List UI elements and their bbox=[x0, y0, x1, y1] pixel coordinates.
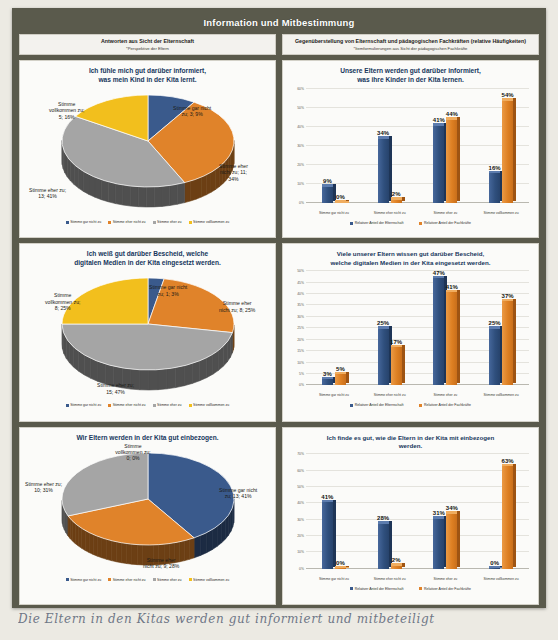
legend-label: Relativer Anteil der Fachkräfte bbox=[424, 403, 471, 407]
y-axis-tick-label: 30% bbox=[297, 315, 304, 319]
bar[interactable]: 54% bbox=[502, 100, 513, 203]
legend-item[interactable]: Relativer Anteil der Fachkräfte bbox=[419, 403, 470, 407]
bar-value-label: 47% bbox=[433, 270, 445, 276]
bar[interactable]: 25% bbox=[489, 328, 500, 385]
legend-item[interactable]: Stimme gar nicht zu bbox=[66, 578, 101, 582]
bar[interactable]: 28% bbox=[378, 523, 389, 569]
bar-chart-plot-area: 0%10%20%30%40%50%60%70%41%0%28%2%31%34%0… bbox=[306, 454, 529, 568]
legend-item[interactable]: Stimme eher zu bbox=[153, 403, 182, 407]
legend-swatch-icon bbox=[153, 221, 156, 224]
bar[interactable]: 0% bbox=[335, 568, 346, 569]
y-axis-tick-label: 20% bbox=[297, 338, 304, 342]
legend-swatch-icon bbox=[189, 404, 192, 407]
bar[interactable]: 0% bbox=[335, 202, 346, 203]
pie-3-plot: Stimme gar nichtzu; 13; 41%Stimme eherni… bbox=[23, 443, 272, 583]
x-axis-tick-label: Stimme vollkommen zu bbox=[473, 577, 529, 581]
bar-1-plot: 0%10%20%30%40%50%60%9%0%34%2%41%44%16%54… bbox=[286, 85, 535, 225]
legend-swatch-icon bbox=[108, 404, 111, 407]
pie-2-legend: Stimme gar nicht zuStimme eher nicht zuS… bbox=[23, 403, 272, 407]
bar[interactable]: 47% bbox=[433, 278, 444, 385]
bar-group: 25%37% bbox=[473, 271, 529, 385]
x-axis-tick-label: Stimme gar nicht zu bbox=[306, 393, 362, 397]
y-axis-tick-label: 5% bbox=[299, 372, 304, 376]
legend-item[interactable]: Stimme eher zu bbox=[153, 220, 182, 224]
x-axis-category-labels: Stimme gar nicht zuStimme eher nicht zuS… bbox=[306, 577, 529, 581]
legend-item[interactable]: Relativer Anteil der Fachkräfte bbox=[419, 221, 470, 225]
bar[interactable]: 0% bbox=[489, 568, 500, 569]
bar[interactable]: 34% bbox=[446, 513, 457, 569]
bar-value-label: 34% bbox=[377, 130, 389, 136]
pie-graphic bbox=[30, 445, 266, 571]
y-axis-tick-label: 70% bbox=[297, 452, 304, 456]
bar[interactable]: 16% bbox=[489, 173, 500, 203]
pie-1-stage: Stimme gar nichtzu; 3; 9%Stimme ehernich… bbox=[23, 87, 272, 215]
pie-slice-label: Stimme ehernicht zu; 9; 28% bbox=[143, 557, 179, 570]
bar-groups: 9%0%34%2%41%44%16%54% bbox=[306, 89, 529, 203]
pie-3-title: Wir Eltern werden in der Kita gut einbez… bbox=[23, 432, 272, 443]
legend-item[interactable]: Stimme eher nicht zu bbox=[108, 403, 145, 407]
bar-group: 0%63% bbox=[473, 454, 529, 568]
x-axis-category-labels: Stimme gar nicht zuStimme eher nicht zuS… bbox=[306, 393, 529, 397]
bar-value-label: 2% bbox=[392, 191, 401, 197]
bar[interactable]: 41% bbox=[446, 292, 457, 386]
bar-value-label: 0% bbox=[490, 560, 499, 566]
bar-2-plot: 0%5%10%15%20%25%30%35%40%45%50%3%5%25%17… bbox=[286, 267, 535, 407]
bar[interactable]: 41% bbox=[322, 502, 333, 569]
legend-item[interactable]: Stimme gar nicht zu bbox=[66, 220, 101, 224]
y-axis-tick-label: 20% bbox=[297, 534, 304, 538]
bar-value-label: 9% bbox=[323, 178, 332, 184]
legend-item[interactable]: Stimme vollkommen zu bbox=[189, 403, 230, 407]
x-axis-tick-label: Stimme eher zu bbox=[418, 393, 474, 397]
legend-label: Stimme gar nicht zu bbox=[70, 220, 101, 224]
legend-swatch-icon bbox=[108, 578, 111, 581]
y-axis-tick-label: 40% bbox=[297, 501, 304, 505]
bar[interactable]: 25% bbox=[378, 328, 389, 385]
bar[interactable]: 37% bbox=[502, 301, 513, 386]
bar-groups: 41%0%28%2%31%34%0%63% bbox=[306, 454, 529, 568]
bar[interactable]: 17% bbox=[391, 347, 402, 386]
bar[interactable]: 3% bbox=[322, 379, 333, 386]
bar[interactable]: 9% bbox=[322, 186, 333, 203]
bar[interactable]: 2% bbox=[391, 199, 402, 203]
legend-item[interactable]: Relativer Anteil der Elternschaft bbox=[350, 221, 403, 225]
y-axis-tick-label: 40% bbox=[297, 125, 304, 129]
legend-item[interactable]: Stimme eher nicht zu bbox=[108, 578, 145, 582]
bar-group: 16%54% bbox=[473, 89, 529, 203]
legend-item[interactable]: Relativer Anteil der Elternschaft bbox=[350, 587, 403, 591]
legend-label: Stimme vollkommen zu bbox=[193, 403, 229, 407]
x-axis-tick-label: Stimme eher nicht zu bbox=[362, 577, 418, 581]
legend-item[interactable]: Stimme vollkommen zu bbox=[189, 578, 230, 582]
y-axis-tick-label: 40% bbox=[297, 292, 304, 296]
legend-item[interactable]: Stimme eher zu bbox=[153, 578, 182, 582]
y-axis-tick-label: 50% bbox=[297, 106, 304, 110]
bar[interactable]: 63% bbox=[502, 466, 513, 569]
bar-value-label: 0% bbox=[336, 194, 345, 200]
bar-value-label: 2% bbox=[392, 557, 401, 563]
pie-2-stage: Stimme gar nichtzu; 1; 3%Stimme ehernich… bbox=[23, 270, 272, 398]
legend-swatch-icon bbox=[66, 221, 69, 224]
bar[interactable]: 2% bbox=[391, 565, 402, 568]
legend-item[interactable]: Relativer Anteil der Fachkräfte bbox=[419, 587, 470, 591]
bar-chart-plot-area: 0%10%20%30%40%50%60%9%0%34%2%41%44%16%54… bbox=[306, 89, 529, 203]
bar[interactable]: 5% bbox=[335, 374, 346, 385]
bar-value-label: 17% bbox=[390, 339, 402, 345]
x-axis-tick-label: Stimme eher nicht zu bbox=[362, 211, 418, 215]
bar[interactable]: 34% bbox=[378, 138, 389, 203]
bar[interactable]: 44% bbox=[446, 119, 457, 203]
pie-1-legend: Stimme gar nicht zuStimme eher nicht zuS… bbox=[23, 220, 272, 224]
y-axis-tick-label: 25% bbox=[297, 326, 304, 330]
bar-panel-1: Unsere Eltern werden gut darüber informi… bbox=[282, 60, 539, 238]
pie-panel-1: Ich fühle mich gut darüber informiert, w… bbox=[19, 60, 276, 238]
legend-item[interactable]: Stimme gar nicht zu bbox=[66, 403, 101, 407]
legend-item[interactable]: Relativer Anteil der Elternschaft bbox=[350, 403, 403, 407]
bar[interactable]: 41% bbox=[433, 125, 444, 203]
bar-value-label: 44% bbox=[446, 111, 458, 117]
legend-item[interactable]: Stimme eher nicht zu bbox=[108, 220, 145, 224]
bar-3-plot: 0%10%20%30%40%50%60%70%41%0%28%2%31%34%0… bbox=[286, 450, 535, 590]
bar[interactable]: 31% bbox=[433, 518, 444, 569]
legend-swatch-icon bbox=[66, 404, 69, 407]
legend-item[interactable]: Stimme vollkommen zu bbox=[189, 220, 230, 224]
legend-label: Stimme eher zu bbox=[157, 220, 182, 224]
presentation-slide: Information und Mitbestimmung Antworten … bbox=[12, 8, 546, 608]
pie-slice-label: Stimmevollkommen zu;0; 0% bbox=[115, 443, 150, 462]
